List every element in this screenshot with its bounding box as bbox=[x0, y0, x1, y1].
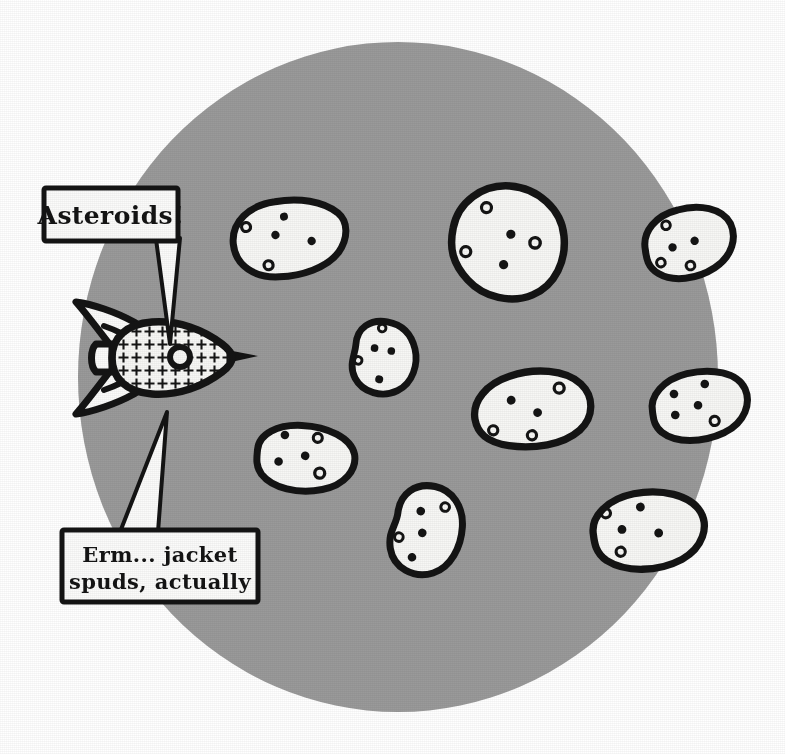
cartoon-canvas: Asteroids! Erm... jacket spuds, actually bbox=[0, 0, 785, 754]
asteroids-bubble-line-1: Asteroids! bbox=[37, 201, 185, 230]
cartoon-illustration: Asteroids! Erm... jacket spuds, actually bbox=[0, 0, 785, 754]
spuds-bubble-line-1: Erm... jacket bbox=[82, 542, 237, 567]
spuds-bubble-line-2: spuds, actually bbox=[69, 569, 251, 594]
rocket-porthole bbox=[170, 347, 190, 367]
